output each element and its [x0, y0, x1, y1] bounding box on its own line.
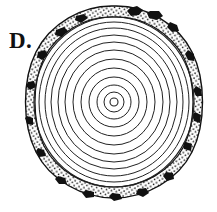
- stippled-rim-band: [0, 0, 217, 212]
- cross-section-drawing: [0, 0, 217, 212]
- panel-label: D.: [9, 29, 32, 52]
- figure-panel: D.: [0, 0, 217, 212]
